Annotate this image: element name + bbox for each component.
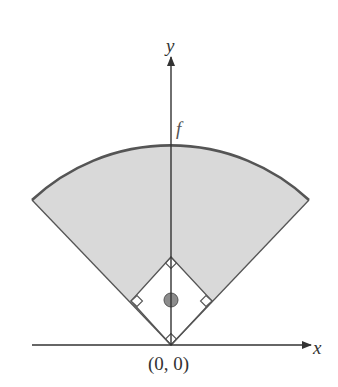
y-axis-label: y: [166, 36, 174, 55]
origin-label: (0, 0): [148, 354, 189, 373]
function-label: f: [176, 119, 181, 138]
baseball-field-diagram: [0, 0, 338, 387]
x-axis-label: x: [313, 338, 321, 357]
